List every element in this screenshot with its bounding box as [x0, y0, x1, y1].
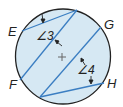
point-label-h: H	[107, 76, 117, 91]
angle-label-3: ∠3	[36, 29, 54, 43]
point-label-e: E	[8, 24, 17, 39]
point-label-f: F	[9, 77, 18, 92]
angle-label-4: ∠4	[77, 63, 95, 77]
circle-diagram: E F G H ∠3 ∠4	[0, 0, 123, 107]
point-label-g: G	[104, 17, 114, 32]
